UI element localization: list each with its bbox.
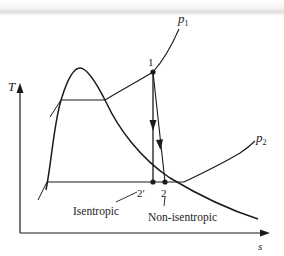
saturation-dome	[46, 68, 258, 219]
isentropic-leader-line	[116, 192, 137, 202]
p2-liquid-stub	[38, 182, 47, 200]
axes	[17, 83, 271, 237]
state-1-label: 1	[148, 56, 154, 68]
t-axis-arrow-icon	[17, 83, 24, 93]
non-isentropic-arrow-icon	[156, 139, 163, 150]
non-isentropic-process-line	[153, 72, 165, 182]
state-2-label: 2	[161, 187, 167, 199]
p2-isobar-superheated	[184, 141, 255, 182]
s-axis-label: s	[258, 240, 262, 252]
p1-label: p1	[177, 11, 189, 28]
state-point-2	[162, 179, 167, 184]
isentropic-label: Isentropic	[73, 205, 119, 218]
state-2-prime-label: 2′	[137, 187, 145, 199]
non-isentropic-label: Non-isentropic	[148, 211, 217, 224]
s-axis-arrow-icon	[260, 230, 270, 237]
t-axis-label: T	[8, 79, 16, 94]
state-point-2-prime	[150, 179, 155, 184]
isentropic-arrow-icon	[150, 120, 157, 131]
p1-isobar-superheated	[105, 29, 179, 100]
ts-diagram: T s p1 p2 1 2′ 2 Isentropic Non-isentrop…	[0, 0, 284, 256]
p2-label: p2	[255, 130, 267, 147]
state-point-1	[150, 69, 155, 74]
